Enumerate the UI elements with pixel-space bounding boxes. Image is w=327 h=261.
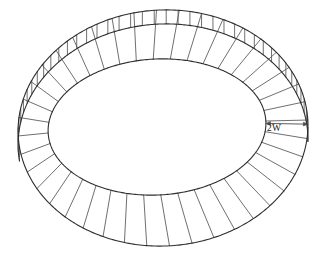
figure-container: 2W bbox=[0, 0, 327, 261]
dimension-label-2w: 2W bbox=[267, 123, 281, 133]
annulus-diagram: 2W bbox=[0, 0, 327, 261]
